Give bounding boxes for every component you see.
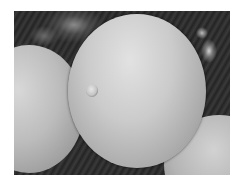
micrograph-photo — [14, 11, 230, 175]
pollen-pore — [86, 84, 98, 97]
